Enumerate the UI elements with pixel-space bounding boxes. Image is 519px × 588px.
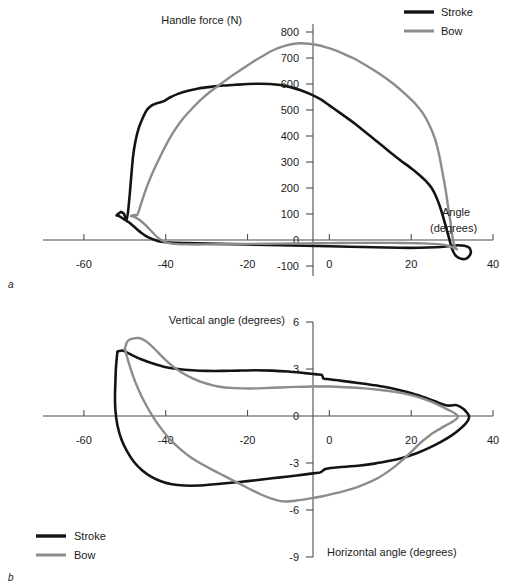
- x-tick-label: 20: [405, 434, 417, 446]
- panel-a-x-axis: -60-40-2002040: [43, 234, 499, 270]
- y-tick-label: 100: [281, 208, 299, 220]
- x-tick-label: -20: [240, 258, 256, 270]
- y-tick-label: 700: [281, 52, 299, 64]
- x-tick-label: 20: [405, 258, 417, 270]
- legend-label-stroke: Stroke: [441, 6, 473, 18]
- y-tick-label: -3: [289, 457, 299, 469]
- y-tick-label: -100: [277, 260, 299, 272]
- legend-label-bow: Bow: [441, 25, 462, 37]
- panel-b-x-axis-title: Horizontal angle (degrees): [327, 546, 457, 558]
- chart-panel-b: -60-40-2002040 630-3-6-9 Vertical angle …: [0, 296, 519, 588]
- panel-b-y-axis: 630-3-6-9: [289, 316, 313, 563]
- legend-label-bow: Bow: [74, 549, 95, 561]
- x-tick-label: 40: [487, 258, 499, 270]
- y-tick-label: 0: [293, 410, 299, 422]
- y-tick-label: 400: [281, 130, 299, 142]
- panel-b-x-axis: -60-40-2002040: [43, 410, 499, 446]
- panel-a-y-axis-title: Handle force (N): [161, 14, 242, 26]
- panel-a-legend: Stroke Bow: [404, 6, 473, 37]
- panel-a-series: [117, 43, 471, 259]
- panel-a-svg: -60-40-2002040 -100010020030040050060070…: [0, 0, 519, 300]
- y-tick-label: -9: [289, 551, 299, 563]
- panel-letter-a: a: [8, 279, 14, 290]
- y-tick-label: 6: [293, 316, 299, 328]
- y-tick-label: 800: [281, 26, 299, 38]
- legend-label-stroke: Stroke: [74, 530, 106, 542]
- panel-a-x-axis-title-line1: Angle: [442, 206, 470, 218]
- x-tick-label: -20: [240, 434, 256, 446]
- x-tick-label: 0: [326, 434, 332, 446]
- panel-a-y-axis: -1000100200300400500600700800: [277, 24, 313, 276]
- x-tick-label: 40: [487, 434, 499, 446]
- y-tick-label: 200: [281, 182, 299, 194]
- panel-a-x-axis-title-line2: (degrees): [430, 222, 477, 234]
- chart-panel-a: -60-40-2002040 -100010020030040050060070…: [0, 0, 519, 300]
- y-tick-label: 300: [281, 156, 299, 168]
- x-tick-label: -60: [76, 434, 92, 446]
- x-tick-label: 0: [326, 258, 332, 270]
- y-tick-label: 500: [281, 104, 299, 116]
- figure-container: -60-40-2002040 -100010020030040050060070…: [0, 0, 519, 588]
- panel-b-legend: Stroke Bow: [36, 530, 106, 561]
- panel-letter-b: b: [8, 572, 14, 583]
- panel-b-svg: -60-40-2002040 630-3-6-9 Vertical angle …: [0, 296, 519, 588]
- y-tick-label: -6: [289, 504, 299, 516]
- x-tick-label: -40: [158, 258, 174, 270]
- x-tick-label: -60: [76, 258, 92, 270]
- panel-b-y-axis-title: Vertical angle (degrees): [169, 314, 285, 326]
